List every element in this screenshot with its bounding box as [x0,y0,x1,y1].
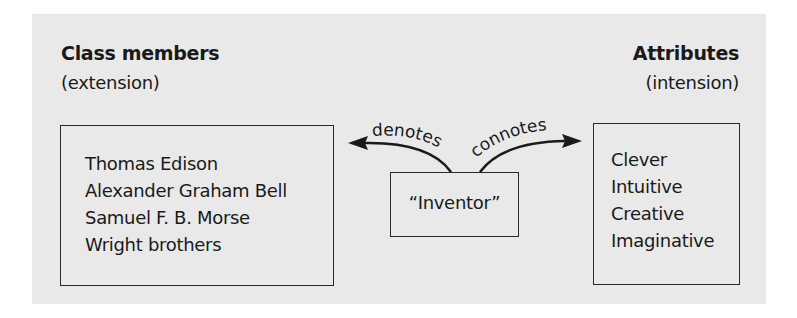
arrows-layer: denotes connotes [0,0,797,318]
connotes-label: connotes [466,114,548,161]
